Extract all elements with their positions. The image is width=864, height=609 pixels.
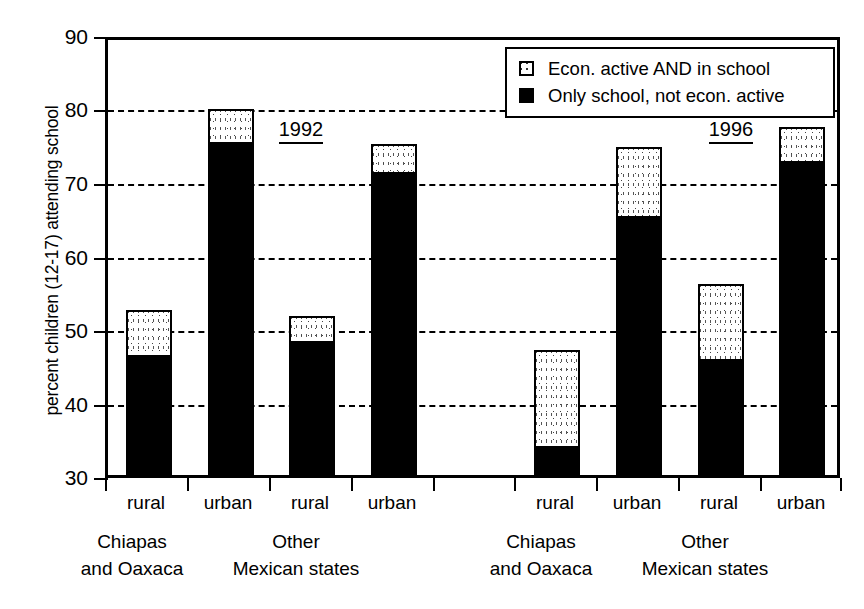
- x-tick-mark-7: [678, 478, 680, 491]
- y-tick-label-40: 40: [30, 393, 88, 417]
- legend-item-active-and-school: Econ. active AND in school: [519, 55, 823, 82]
- x-group-label-line2: Mexican states: [590, 555, 820, 582]
- bar-segment-only-school: [616, 218, 662, 475]
- period-label-1992-text: 1992: [279, 118, 324, 144]
- plot-area: 1992 1996 Econ. active AND in school Onl…: [105, 37, 840, 478]
- x-tick-mark-0: [105, 478, 107, 491]
- bar-segment-active-and-school: [698, 284, 744, 361]
- period-label-1992: 1992: [256, 118, 346, 144]
- bar-segment-active-and-school: [534, 350, 580, 448]
- x-tick-label-4: urban: [337, 492, 447, 514]
- x-group-label-line2: Mexican states: [181, 555, 411, 582]
- x-tick-mark-5: [514, 478, 516, 491]
- y-tick-label-50: 50: [30, 319, 88, 343]
- chart-root: percent children (12-17) attending schoo…: [0, 0, 864, 609]
- x-tick-mark-2: [269, 478, 271, 491]
- legend: Econ. active AND in school Only school, …: [505, 47, 835, 118]
- x-tick-mark-4: [433, 478, 435, 491]
- bar-1992-chiapas-rural: [126, 310, 172, 475]
- y-tick-label-30: 30: [30, 466, 88, 490]
- bar-segment-only-school: [208, 144, 254, 475]
- y-tick-label-80: 80: [30, 98, 88, 122]
- y-tick-label-60: 60: [30, 246, 88, 270]
- legend-label-only-school: Only school, not econ. active: [548, 85, 785, 107]
- x-tick-mark-6: [596, 478, 598, 491]
- bar-segment-only-school: [534, 448, 580, 475]
- legend-label-active-and-school: Econ. active AND in school: [548, 58, 770, 80]
- bar-1996-other-rural: [698, 284, 744, 475]
- x-tick-mark-8: [760, 478, 762, 491]
- bar-1996-chiapas-urban: [616, 147, 662, 475]
- bar-1992-other-urban: [371, 144, 417, 475]
- legend-swatch-dotted-square-icon: [519, 61, 534, 76]
- x-group-label-line1: Other: [590, 528, 820, 555]
- bar-segment-active-and-school: [289, 316, 335, 343]
- x-group-label-other-1992: Other Mexican states: [181, 528, 411, 582]
- bar-segment-active-and-school: [371, 144, 417, 173]
- x-tick-label-8: urban: [746, 492, 856, 514]
- legend-swatch-black-square-icon: [519, 88, 534, 103]
- legend-item-only-school: Only school, not econ. active: [519, 82, 823, 109]
- bar-segment-active-and-school: [616, 147, 662, 218]
- bar-1996-other-urban: [779, 127, 825, 475]
- y-tick-label-90: 90: [30, 25, 88, 49]
- bar-1992-chiapas-urban: [208, 109, 254, 475]
- bar-1996-chiapas-rural: [534, 350, 580, 475]
- period-label-1996: 1996: [686, 118, 776, 144]
- bar-segment-only-school: [289, 343, 335, 475]
- x-group-label-line1: Other: [181, 528, 411, 555]
- bar-1992-other-rural: [289, 316, 335, 475]
- bar-segment-only-school: [779, 163, 825, 475]
- bar-segment-only-school: [126, 357, 172, 475]
- x-tick-mark-9: [840, 478, 842, 491]
- bar-segment-active-and-school: [779, 127, 825, 163]
- bar-segment-active-and-school: [208, 109, 254, 144]
- bar-segment-active-and-school: [126, 310, 172, 358]
- bar-segment-only-school: [371, 174, 417, 475]
- x-group-label-other-1996: Other Mexican states: [590, 528, 820, 582]
- x-tick-mark-1: [187, 478, 189, 491]
- x-tick-mark-3: [351, 478, 353, 491]
- bar-segment-only-school: [698, 361, 744, 475]
- period-label-1996-text: 1996: [709, 118, 754, 144]
- y-tick-label-70: 70: [30, 172, 88, 196]
